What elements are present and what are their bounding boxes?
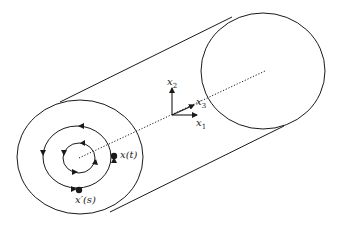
cylinder-bottom-edge	[110, 126, 284, 212]
point-x-s	[76, 187, 82, 193]
cylinder-top-edge	[60, 17, 232, 102]
diagram-canvas	[0, 0, 343, 225]
cylinder-diagram: x2 x3 x1 x(t) x′(s)	[0, 0, 343, 225]
axis-label-x3: x3	[196, 97, 206, 110]
point-label-x-s: x′(s)	[75, 195, 96, 205]
cylinder-back-face	[201, 13, 325, 129]
axis-label-x1: x1	[196, 118, 206, 131]
point-label-x-t: x(t)	[120, 150, 137, 160]
outer-orbit	[43, 126, 111, 188]
orbit-arrow-icons	[40, 123, 98, 192]
coordinate-frame	[172, 88, 197, 115]
axis-label-x2: x2	[167, 77, 177, 90]
